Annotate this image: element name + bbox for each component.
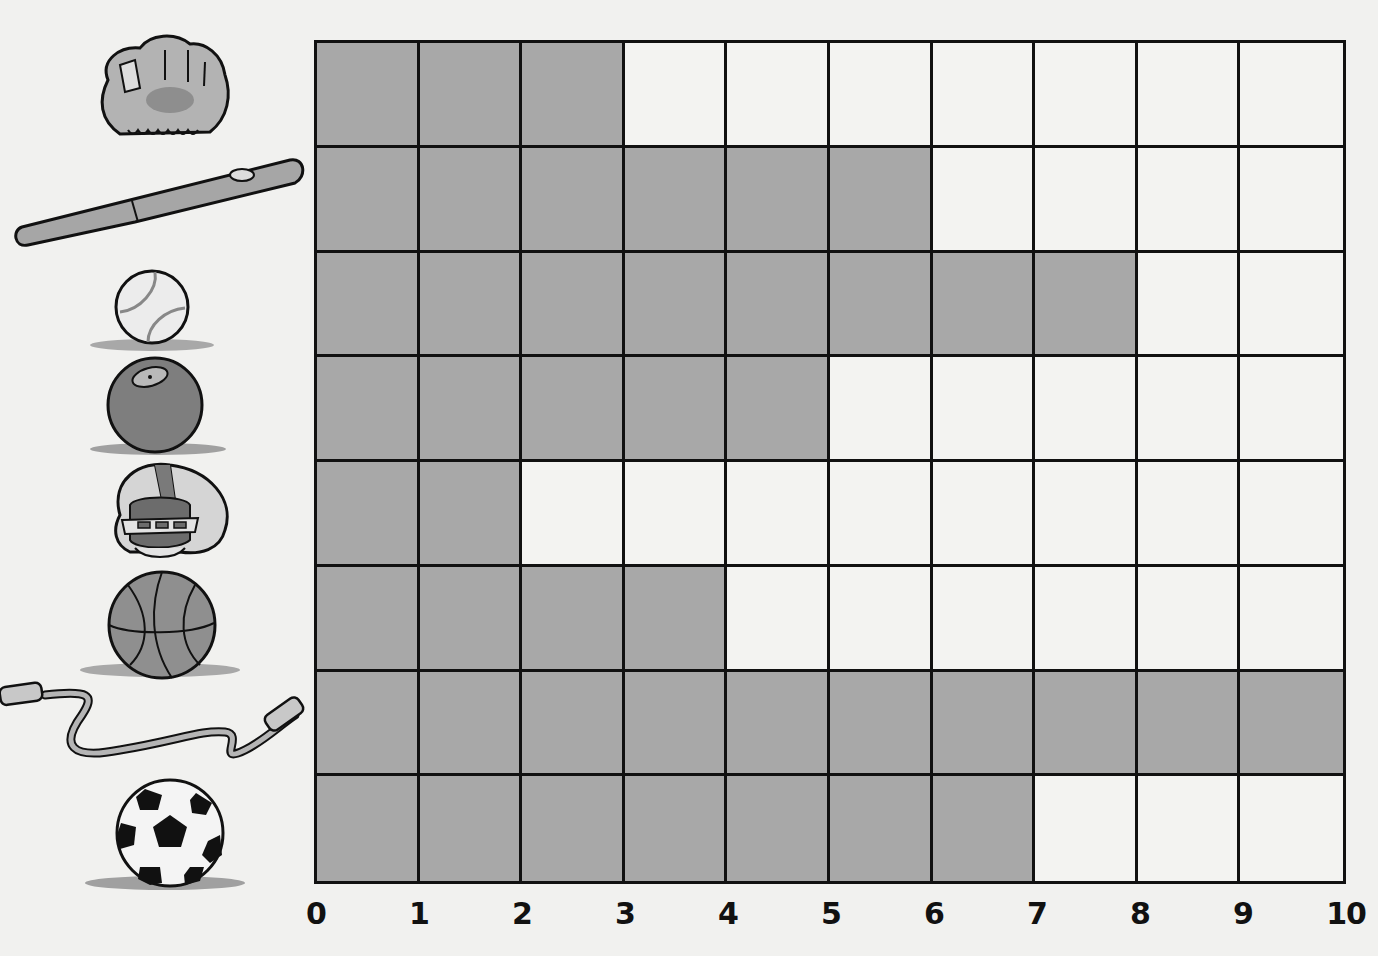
grid-cell (933, 253, 1036, 358)
grid-cell (727, 776, 830, 881)
grid-cell (1240, 148, 1343, 253)
grid-cell (1240, 672, 1343, 777)
bowling-ball-icon (0, 355, 310, 460)
row-label-helmet (0, 460, 310, 565)
grid-cell (933, 462, 1036, 567)
grid-cell (933, 567, 1036, 672)
grid-cell (727, 148, 830, 253)
grid-cell (933, 148, 1036, 253)
grid-cell (727, 672, 830, 777)
x-tick-label: 9 (1233, 896, 1253, 931)
row-label-soccer-ball (0, 775, 310, 884)
grid-cell (522, 43, 625, 148)
grid-cell (1138, 357, 1241, 462)
grid-cell (830, 567, 933, 672)
row-label-basketball (0, 565, 310, 670)
grid-cell (420, 462, 523, 567)
baseball-icon (0, 250, 310, 355)
grid-cell (522, 253, 625, 358)
grid-cell (317, 357, 420, 462)
row-label-glove (0, 40, 310, 145)
grid-cell (727, 462, 830, 567)
x-tick-label: 5 (821, 896, 841, 931)
grid-cell (625, 253, 728, 358)
grid-cell (727, 567, 830, 672)
grid-cell (625, 776, 728, 881)
x-tick-label: 10 (1326, 896, 1366, 931)
grid-cell (625, 148, 728, 253)
grid-cell (1035, 567, 1138, 672)
x-tick-label: 1 (409, 896, 429, 931)
grid-cell (1240, 567, 1343, 672)
grid-cell (1035, 148, 1138, 253)
grid-cell (522, 776, 625, 881)
x-tick-label: 6 (924, 896, 944, 931)
row-label-baseball (0, 250, 310, 355)
grid-cell (317, 148, 420, 253)
grid-cell (317, 776, 420, 881)
grid-cell (420, 672, 523, 777)
grid-cell (933, 672, 1036, 777)
grid-cell (1240, 43, 1343, 148)
grid-cell (317, 253, 420, 358)
grid-cell (1240, 462, 1343, 567)
row-label-bat (0, 145, 310, 250)
grid-cell (420, 776, 523, 881)
grid-cell (1138, 567, 1241, 672)
grid-cell (1035, 672, 1138, 777)
grid-cell (1035, 776, 1138, 881)
grid-cell (625, 462, 728, 567)
grid-cell (727, 357, 830, 462)
grid-cell (317, 43, 420, 148)
football-helmet-icon (0, 460, 310, 565)
x-tick-label: 4 (718, 896, 738, 931)
grid-cell (625, 357, 728, 462)
x-tick-label: 0 (306, 896, 326, 931)
grid-cell (1138, 253, 1241, 358)
grid-cell (830, 253, 933, 358)
grid-cell (420, 43, 523, 148)
grid-cell (522, 357, 625, 462)
category-icons (0, 0, 310, 900)
grid-cell (317, 567, 420, 672)
grid-cell (933, 776, 1036, 881)
x-tick-label: 8 (1130, 896, 1150, 931)
row-label-jump-rope (0, 670, 310, 775)
grid-cell (625, 672, 728, 777)
x-tick-label: 7 (1027, 896, 1047, 931)
grid-cell (1035, 357, 1138, 462)
grid-cell (830, 776, 933, 881)
pictograph-grid (314, 40, 1346, 884)
grid-cell (625, 43, 728, 148)
x-axis: 012345678910 (0, 896, 1378, 946)
baseball-glove-icon (0, 40, 310, 145)
grid-cell (1138, 43, 1241, 148)
grid-cell (1138, 462, 1241, 567)
grid-cell (522, 462, 625, 567)
grid-cell (420, 253, 523, 358)
grid-cell (727, 253, 830, 358)
grid-cell (1138, 148, 1241, 253)
grid-cell (830, 462, 933, 567)
baseball-bat-icon (0, 145, 310, 250)
grid-cell (420, 567, 523, 672)
grid-cell (933, 43, 1036, 148)
grid-cell (830, 357, 933, 462)
grid-cell (1240, 253, 1343, 358)
grid-cell (522, 148, 625, 253)
grid-cell (1035, 43, 1138, 148)
grid-cell (625, 567, 728, 672)
grid-cell (1138, 776, 1241, 881)
grid-cell (830, 148, 933, 253)
grid-cell (420, 357, 523, 462)
row-label-bowling-ball (0, 355, 310, 460)
grid-cell (522, 672, 625, 777)
grid-cell (522, 567, 625, 672)
x-tick-label: 2 (512, 896, 532, 931)
grid-cell (1138, 672, 1241, 777)
basketball-icon (0, 565, 310, 670)
grid-cell (317, 462, 420, 567)
grid-cell (317, 672, 420, 777)
grid-cell (1035, 253, 1138, 358)
grid-cell (420, 148, 523, 253)
